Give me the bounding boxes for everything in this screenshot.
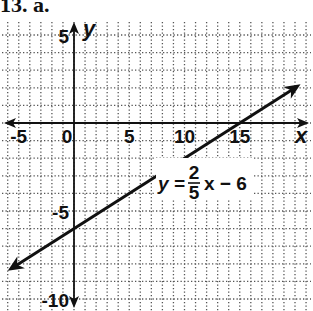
y-tick-label: 5: [58, 26, 69, 47]
y-tick-label: -10: [42, 290, 69, 311]
line-end-arrow-icon: [283, 84, 300, 99]
x-axis-label: x: [294, 123, 308, 148]
x-tick-label: 0: [62, 126, 73, 147]
x-tick-label: 5: [124, 126, 135, 147]
equation-label: y =25x − 6: [156, 158, 252, 203]
line-series: [8, 84, 301, 271]
x-tick-label: -5: [10, 126, 27, 147]
equation-rhs: x − 6: [204, 173, 247, 194]
y-tick-label: -5: [52, 202, 69, 223]
coordinate-plane: xy -50510155-5-10 y =25x − 6: [0, 0, 313, 311]
y-axis-label: y: [82, 16, 97, 41]
x-tick-label: 10: [174, 126, 195, 147]
equation-numerator: 2: [189, 162, 200, 183]
equation-denominator: 5: [189, 182, 200, 203]
equation-lhs: y =: [157, 173, 185, 194]
